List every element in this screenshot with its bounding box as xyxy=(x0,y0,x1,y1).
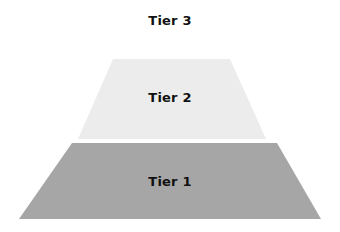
tier-3-label: Tier 3 xyxy=(0,13,340,28)
tier-1-label: Tier 1 xyxy=(0,174,340,189)
pyramid-diagram: Tier 3 Tier 2 Tier 1 xyxy=(0,0,340,232)
pyramid-shapes xyxy=(0,0,340,232)
tier-2-label: Tier 2 xyxy=(0,90,340,105)
